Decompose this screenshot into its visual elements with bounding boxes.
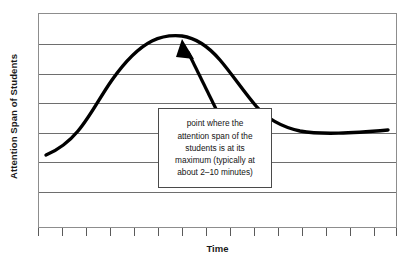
annotation-line-5: about 2–10 minutes) (177, 167, 253, 177)
x-tick-9 (254, 228, 255, 236)
x-axis-title: Time (38, 243, 397, 254)
x-tick-0 (38, 228, 39, 236)
x-tick-7 (206, 228, 207, 236)
x-tick-3 (110, 228, 111, 236)
x-tick-8 (230, 228, 231, 236)
x-tick-2 (86, 228, 87, 236)
annotation-line-1: point where the (187, 118, 244, 128)
x-tick-4 (134, 228, 135, 236)
x-tick-5 (158, 228, 159, 236)
gridline-1 (39, 192, 396, 193)
x-tick-13 (350, 228, 351, 236)
x-tick-14 (374, 228, 375, 236)
y-axis-title: Attention Span of Students (0, 0, 28, 232)
x-tick-11 (302, 228, 303, 236)
chart-figure: Attention Span of Students point where t… (0, 0, 414, 266)
x-tick-12 (326, 228, 327, 236)
x-tick-6 (182, 228, 183, 236)
annotation-line-4: maximum (typically at (175, 155, 255, 165)
annotation-text: point where the attention span of the st… (171, 117, 259, 178)
x-tick-10 (278, 228, 279, 236)
annotation-line-2: attention span of the (177, 131, 252, 141)
x-tick-15 (396, 228, 397, 236)
y-axis-title-text: Attention Span of Students (9, 53, 20, 178)
gridline-6 (39, 44, 396, 45)
x-tick-1 (62, 228, 63, 236)
annotation-line-3: students is at its (185, 143, 245, 153)
gridline-4 (39, 103, 396, 104)
gridline-5 (39, 74, 396, 75)
annotation-callout-box: point where the attention span of the st… (158, 108, 272, 188)
